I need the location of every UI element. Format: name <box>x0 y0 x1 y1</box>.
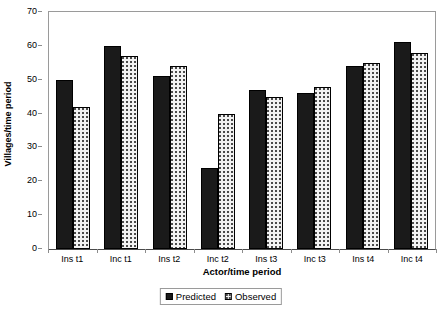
y-tick-mark <box>38 79 42 80</box>
x-tick-label: Ins t2 <box>145 254 194 264</box>
y-tick-label: 70 <box>27 7 37 16</box>
bars-layer <box>49 12 435 249</box>
bar-predicted-ins-t2 <box>153 76 170 249</box>
legend-swatch-observed-icon <box>225 293 232 300</box>
x-tick-mark <box>242 249 243 253</box>
y-tick-mark <box>38 146 42 147</box>
bar-group <box>194 12 242 249</box>
bar-predicted-inc-t3 <box>297 93 314 249</box>
bar-observed-ins-t1 <box>73 107 90 249</box>
legend-label: Observed <box>235 291 276 302</box>
bar-group <box>290 12 338 249</box>
y-axis-title-text: Villages/time period <box>3 82 13 167</box>
bar-group <box>97 12 145 249</box>
x-tick-mark <box>339 249 340 253</box>
y-tick-mark <box>38 180 42 181</box>
legend-entry-predicted: Predicted <box>166 291 216 302</box>
x-tick-label: Ins t4 <box>339 254 388 264</box>
bar-observed-ins-t2 <box>170 66 187 249</box>
x-tick-label: Ins t3 <box>242 254 291 264</box>
y-axis-title: Villages/time period <box>0 0 16 248</box>
y-axis-ticks: 706050403020100 <box>16 0 42 260</box>
chart-legend: PredictedObserved <box>160 288 282 305</box>
x-axis-title: Actor/time period <box>48 266 436 277</box>
y-tick-label: 10 <box>27 210 37 219</box>
x-tick-mark <box>291 249 292 253</box>
y-tick-label: 0 <box>32 244 37 253</box>
y-tick-label: 50 <box>27 74 37 83</box>
x-tick-mark <box>436 249 437 253</box>
bar-observed-inc-t1 <box>121 56 138 249</box>
x-tick-mark <box>388 249 389 253</box>
x-tick-label: Inc t1 <box>97 254 146 264</box>
x-tick-mark <box>145 249 146 253</box>
bar-predicted-inc-t4 <box>394 42 411 249</box>
y-tick-mark <box>38 113 42 114</box>
plot-area <box>48 11 436 250</box>
bar-predicted-ins-t4 <box>346 66 363 249</box>
y-tick-mark <box>38 11 42 12</box>
bar-predicted-inc-t1 <box>104 46 121 249</box>
y-tick-mark <box>38 45 42 46</box>
y-tick-label: 60 <box>27 40 37 49</box>
bar-predicted-ins-t3 <box>249 90 266 249</box>
bar-group <box>387 12 435 249</box>
x-tick-label: Inc t4 <box>388 254 437 264</box>
bar-predicted-ins-t1 <box>56 80 73 249</box>
y-tick-label: 40 <box>27 108 37 117</box>
bar-group <box>49 12 97 249</box>
y-tick-mark <box>38 248 42 249</box>
bar-group <box>242 12 290 249</box>
y-tick-label: 30 <box>27 142 37 151</box>
legend-swatch-predicted-icon <box>166 293 173 300</box>
bar-predicted-inc-t2 <box>201 168 218 249</box>
y-tick-label: 20 <box>27 176 37 185</box>
bar-observed-inc-t4 <box>411 53 428 249</box>
bar-group <box>339 12 387 249</box>
bar-observed-inc-t3 <box>314 87 331 250</box>
x-tick-mark <box>97 249 98 253</box>
bar-group <box>146 12 194 249</box>
bar-observed-ins-t4 <box>363 63 380 249</box>
x-tick-label: Inc t3 <box>291 254 340 264</box>
bar-chart: Villages/time period 706050403020100 Ins… <box>0 0 442 316</box>
y-tick-mark <box>38 214 42 215</box>
x-tick-label: Ins t1 <box>48 254 97 264</box>
bar-observed-inc-t2 <box>218 114 235 249</box>
legend-entry-observed: Observed <box>225 291 276 302</box>
x-tick-mark <box>48 249 49 253</box>
x-tick-label: Inc t2 <box>194 254 243 264</box>
legend-label: Predicted <box>176 291 216 302</box>
x-tick-mark <box>194 249 195 253</box>
bar-observed-ins-t3 <box>266 97 283 249</box>
